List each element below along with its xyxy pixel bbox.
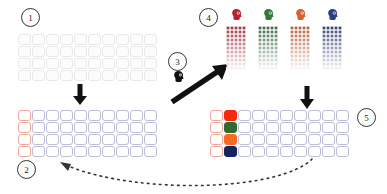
grid-cell[interactable] [116, 46, 129, 57]
grid-cell[interactable] [74, 70, 87, 81]
grid-cell[interactable] [88, 122, 101, 133]
grid-cell[interactable] [144, 46, 157, 57]
grid-cell[interactable] [88, 134, 101, 145]
grid-cell[interactable] [32, 146, 45, 157]
grid-cell[interactable] [46, 122, 59, 133]
grid-cell[interactable] [60, 110, 73, 121]
grid-cell[interactable] [238, 134, 251, 145]
grid-cell[interactable] [60, 46, 73, 57]
grid-cell[interactable] [32, 58, 45, 69]
grid-cell[interactable] [144, 58, 157, 69]
grid-cell[interactable] [60, 134, 73, 145]
grid-cell[interactable] [60, 122, 73, 133]
grid-cell[interactable] [60, 70, 73, 81]
grid-cell[interactable] [88, 34, 101, 45]
grid-cell[interactable] [32, 110, 45, 121]
grid-cell[interactable] [32, 122, 45, 133]
grid-cell[interactable] [116, 70, 129, 81]
grid-cell[interactable] [74, 134, 87, 145]
grid-cell[interactable] [46, 134, 59, 145]
grid-cell[interactable] [280, 110, 293, 121]
grid-cell[interactable] [130, 134, 143, 145]
grid-cell[interactable] [322, 122, 335, 133]
grid-cell[interactable] [280, 134, 293, 145]
grid-cell[interactable] [116, 122, 129, 133]
grid-cell[interactable] [224, 110, 237, 121]
grid-cell[interactable] [102, 46, 115, 57]
grid-cell[interactable] [322, 134, 335, 145]
grid-cell[interactable] [144, 134, 157, 145]
grid-cell[interactable] [60, 58, 73, 69]
grid-cell[interactable] [46, 70, 59, 81]
grid-cell[interactable] [18, 34, 31, 45]
grid-cell[interactable] [130, 70, 143, 81]
agent-orange[interactable] [290, 8, 310, 82]
agent-green[interactable] [258, 8, 278, 82]
grid-cell[interactable] [102, 70, 115, 81]
grid-cell[interactable] [252, 122, 265, 133]
grid-cell[interactable] [130, 122, 143, 133]
grid-cell[interactable] [252, 134, 265, 145]
grid-cell[interactable] [266, 110, 279, 121]
grid-cell[interactable] [144, 110, 157, 121]
grid-cell[interactable] [102, 58, 115, 69]
grid-cell[interactable] [130, 110, 143, 121]
grid-cell[interactable] [130, 46, 143, 57]
agent-navy[interactable] [322, 8, 342, 82]
grid-cell[interactable] [74, 122, 87, 133]
grid-cell[interactable] [32, 134, 45, 145]
grid-cell[interactable] [266, 122, 279, 133]
grid-cell[interactable] [60, 34, 73, 45]
grid-cell[interactable] [210, 122, 223, 133]
grid-cell[interactable] [336, 122, 349, 133]
grid-cell[interactable] [18, 46, 31, 57]
grid-cell[interactable] [18, 122, 31, 133]
grid-cell[interactable] [18, 58, 31, 69]
grid-cell[interactable] [18, 70, 31, 81]
grid-cell[interactable] [266, 134, 279, 145]
grid-cell[interactable] [18, 134, 31, 145]
grid-cell[interactable] [88, 58, 101, 69]
grid-cell[interactable] [322, 110, 335, 121]
grid-cell[interactable] [308, 134, 321, 145]
grid-cell[interactable] [74, 110, 87, 121]
grid-cell[interactable] [46, 46, 59, 57]
grid-cell[interactable] [322, 146, 335, 157]
grid-cell[interactable] [102, 34, 115, 45]
grid-cell[interactable] [116, 34, 129, 45]
grid-cell[interactable] [116, 58, 129, 69]
grid-cell[interactable] [144, 70, 157, 81]
grid-cell[interactable] [116, 134, 129, 145]
grid-cell[interactable] [102, 122, 115, 133]
grid-cell[interactable] [32, 70, 45, 81]
grid-cell[interactable] [74, 46, 87, 57]
grid-cell[interactable] [224, 122, 237, 133]
grid-cell[interactable] [308, 122, 321, 133]
grid-cell[interactable] [18, 110, 31, 121]
grid-cell[interactable] [252, 110, 265, 121]
grid-cell[interactable] [88, 46, 101, 57]
grid-cell[interactable] [88, 70, 101, 81]
grid-cell[interactable] [280, 122, 293, 133]
grid-cell[interactable] [336, 110, 349, 121]
grid-cell[interactable] [102, 110, 115, 121]
grid-cell[interactable] [210, 134, 223, 145]
grid-cell[interactable] [294, 134, 307, 145]
grid-cell[interactable] [102, 134, 115, 145]
grid-cell[interactable] [144, 34, 157, 45]
grid-cell[interactable] [130, 34, 143, 45]
grid-cell[interactable] [74, 34, 87, 45]
grid-cell[interactable] [88, 110, 101, 121]
grid-cell[interactable] [46, 58, 59, 69]
grid-cell[interactable] [210, 110, 223, 121]
grid-cell[interactable] [336, 134, 349, 145]
grid-cell[interactable] [46, 110, 59, 121]
grid-cell[interactable] [238, 110, 251, 121]
grid-cell[interactable] [46, 34, 59, 45]
agent-red[interactable] [226, 8, 246, 82]
grid-cell[interactable] [116, 110, 129, 121]
grid-cell[interactable] [238, 122, 251, 133]
grid-cell[interactable] [32, 34, 45, 45]
grid-cell[interactable] [144, 122, 157, 133]
grid-cell[interactable] [294, 110, 307, 121]
